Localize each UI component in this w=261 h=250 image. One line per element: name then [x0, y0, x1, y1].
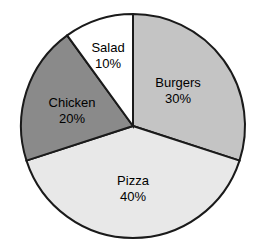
slice-label-burgers-name: Burgers: [155, 75, 201, 91]
slice-label-chicken: Chicken 20%: [49, 95, 96, 127]
slice-label-burgers: Burgers 30%: [155, 75, 201, 107]
slice-label-salad-value: 10%: [91, 56, 124, 72]
slice-label-pizza-value: 40%: [117, 189, 149, 205]
slice-label-salad-name: Salad: [91, 40, 124, 56]
pie-chart-canvas: [0, 0, 261, 250]
slice-label-salad: Salad 10%: [91, 40, 124, 72]
slice-label-burgers-value: 30%: [155, 91, 201, 107]
pie-chart: Burgers 30% Pizza 40% Chicken 20% Salad …: [0, 0, 261, 250]
slice-label-pizza: Pizza 40%: [117, 173, 149, 205]
slice-label-pizza-name: Pizza: [117, 173, 149, 189]
slice-label-chicken-value: 20%: [49, 111, 96, 127]
slice-label-chicken-name: Chicken: [49, 95, 96, 111]
